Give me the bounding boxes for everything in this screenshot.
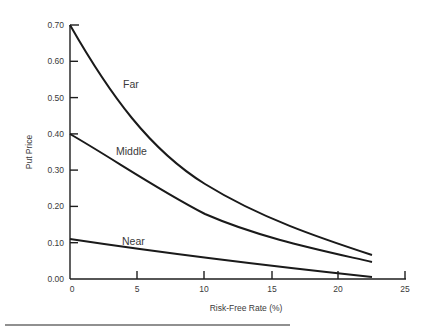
middle-label: Middle (116, 145, 147, 157)
y-tick-label: 0.00 (47, 274, 64, 284)
x-tick-label: 20 (333, 284, 343, 294)
x-tick-label: 10 (199, 284, 209, 294)
x-axis-title: Risk-Free Rate (%) (210, 303, 283, 313)
near-curve (70, 239, 372, 277)
x-tick-label: 25 (400, 284, 410, 294)
x-tick-labels: 0 5 10 15 20 25 (70, 284, 410, 294)
y-tick-label: 0.20 (47, 201, 64, 211)
far-label: Far (123, 78, 139, 90)
near-label: Near (122, 235, 145, 247)
x-ticks (137, 271, 405, 279)
x-tick-label: 5 (135, 284, 140, 294)
put-price-chart: 0.00 0.10 0.20 0.30 0.40 0.50 0.60 0.70 … (0, 0, 427, 334)
y-tick-label: 0.10 (47, 238, 64, 248)
x-tick-label: 0 (70, 284, 75, 294)
x-tick-label: 15 (267, 284, 277, 294)
y-tick-label: 0.70 (47, 20, 64, 30)
y-axis-title: Put Price (24, 134, 34, 169)
y-tick-labels: 0.00 0.10 0.20 0.30 0.40 0.50 0.60 0.70 (47, 20, 64, 284)
y-tick-label: 0.30 (47, 165, 64, 175)
y-tick-label: 0.60 (47, 56, 64, 66)
y-tick-label: 0.50 (47, 93, 64, 103)
y-tick-label: 0.40 (47, 129, 64, 139)
